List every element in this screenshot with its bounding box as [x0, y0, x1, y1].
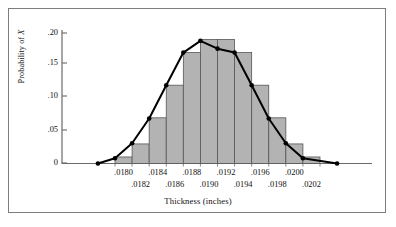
y-axis-tick-labels: .20 .15 .10 .05 0	[30, 0, 58, 227]
y-tick-label: .05	[32, 125, 58, 134]
curve-data-point	[181, 50, 186, 55]
curve-data-point	[198, 39, 203, 44]
curve-data-point	[266, 116, 271, 121]
y-tick-label: 0	[32, 158, 58, 167]
y-tick-label: .20	[32, 28, 58, 37]
curve-data-point	[335, 161, 340, 166]
histogram-bars	[115, 40, 320, 164]
curve-data-point	[113, 156, 118, 161]
y-axis-title-text: Probability of	[17, 35, 26, 84]
histogram-bar	[252, 85, 269, 163]
curve-data-point	[130, 141, 135, 146]
x-tick-label-upper: .0200	[274, 168, 314, 177]
histogram-bar	[218, 40, 235, 164]
histogram-bar	[200, 40, 217, 164]
histogram-bar	[166, 85, 183, 163]
curve-data-point	[301, 156, 306, 161]
x-tick-label-lower: .0202	[291, 180, 331, 189]
curve-data-point	[164, 83, 169, 88]
curve-data-point	[232, 50, 237, 55]
curve-data-point	[96, 161, 101, 166]
curve-data-point	[284, 141, 289, 146]
curve-data-point	[249, 83, 254, 88]
y-tick-label: .15	[32, 58, 58, 67]
chart-plot-area	[0, 0, 396, 227]
chart-figure: .20 .15 .10 .05 0 Probability of X .0180…	[0, 0, 396, 227]
y-axis-title: Probability of X	[17, 0, 26, 122]
y-axis-title-variable: X	[17, 30, 26, 35]
histogram-bar	[115, 157, 132, 164]
x-axis-title: Thickness (inches)	[0, 196, 396, 206]
y-axis-ticks	[62, 33, 67, 163]
curve-data-point	[147, 116, 152, 121]
histogram-bar	[183, 53, 200, 164]
histogram-bar	[149, 118, 166, 164]
histogram-bar	[286, 144, 303, 164]
histogram-bar	[132, 144, 149, 164]
curve-data-point	[215, 46, 220, 51]
y-tick-label: .10	[32, 91, 58, 100]
